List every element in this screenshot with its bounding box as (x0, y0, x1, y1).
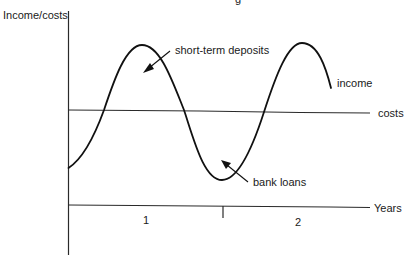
deposits-arrowhead-icon (143, 63, 154, 73)
x-tick-label-2: 2 (295, 216, 301, 228)
x-tick-label-1: 1 (143, 214, 149, 226)
title-fragment: g (235, 0, 241, 5)
loans-label: bank loans (253, 176, 307, 188)
deposits-pointer (149, 51, 170, 68)
loans-pointer (227, 165, 248, 182)
costs-label: costs (378, 107, 404, 119)
x-axis (69, 205, 371, 208)
y-axis-label: Income/costs (3, 9, 68, 21)
x-axis-label: Years (374, 202, 402, 214)
costs-line (69, 110, 371, 113)
deposits-label: short-term deposits (175, 44, 270, 56)
income-costs-chart: g Income/costs Years 1 2 costs income sh… (0, 0, 418, 264)
income-label: income (337, 77, 372, 89)
chart-svg: g Income/costs Years 1 2 costs income sh… (0, 0, 418, 264)
